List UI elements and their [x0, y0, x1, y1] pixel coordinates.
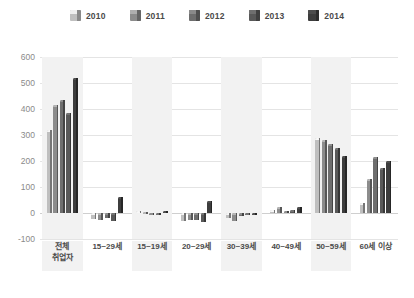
bar-group: [219, 57, 264, 239]
bar-2014[interactable]: [342, 156, 347, 213]
cube-icon: [70, 10, 81, 21]
bar-group: [174, 57, 219, 239]
bar-2011[interactable]: [367, 179, 372, 213]
bar-2012[interactable]: [60, 100, 65, 213]
legend-item-2013[interactable]: 2013: [249, 10, 285, 21]
x-axis-label: 15~19세: [130, 242, 175, 253]
bar-2012[interactable]: [328, 144, 333, 213]
bar-2010[interactable]: [136, 211, 141, 213]
bar-2013[interactable]: [111, 213, 116, 221]
bar-2011[interactable]: [53, 105, 58, 213]
bar-2010[interactable]: [270, 210, 275, 213]
bar-2011[interactable]: [98, 213, 103, 220]
x-axis-label: 40~49세: [264, 242, 309, 253]
legend-label: 2013: [265, 11, 285, 21]
bar-2012[interactable]: [373, 157, 378, 213]
y-axis-tick: 0: [30, 208, 35, 218]
bar-2013[interactable]: [290, 210, 295, 213]
bar-group: [264, 57, 309, 239]
y-axis-tick: 200: [21, 156, 35, 166]
plot-area: [40, 57, 398, 239]
y-axis: 6005004003002001000-100: [0, 57, 40, 239]
y-axis-tick: 400: [21, 104, 35, 114]
bar-group: [353, 57, 398, 239]
cube-icon: [308, 10, 319, 21]
legend-item-2010[interactable]: 2010: [70, 10, 106, 21]
chart-legend: 20102011201220132014: [0, 10, 414, 21]
x-axis-label: 전체 취업자: [40, 242, 85, 263]
bar-2012[interactable]: [239, 213, 244, 216]
bar-2014[interactable]: [118, 197, 123, 213]
bar-2014[interactable]: [207, 201, 212, 213]
bar-2013[interactable]: [156, 213, 161, 215]
bar-2010[interactable]: [181, 213, 186, 221]
bar-2013[interactable]: [66, 113, 71, 213]
x-axis-label: 50~59세: [309, 242, 354, 253]
bar-2011[interactable]: [143, 212, 148, 214]
legend-label: 2011: [146, 11, 165, 21]
legend-item-2012[interactable]: 2012: [189, 10, 225, 21]
gridline: [40, 239, 398, 240]
bar-2012[interactable]: [105, 213, 110, 218]
bar-group: [309, 57, 354, 239]
bar-2010[interactable]: [47, 130, 52, 213]
y-axis-tick: 600: [21, 52, 35, 62]
bar-2012[interactable]: [149, 213, 154, 215]
legend-item-2014[interactable]: 2014: [308, 10, 344, 21]
x-axis-label: 15~29세: [85, 242, 130, 253]
bar-2013[interactable]: [335, 148, 340, 213]
x-axis-label: 20~29세: [174, 242, 219, 253]
bar-2010[interactable]: [91, 213, 96, 219]
bar-2013[interactable]: [245, 213, 250, 215]
legend-label: 2012: [205, 11, 225, 21]
bar-2011[interactable]: [188, 213, 193, 220]
bar-2012[interactable]: [194, 213, 199, 220]
x-axis-label: 30~39세: [219, 242, 264, 253]
y-axis-tick: -100: [18, 234, 35, 244]
bar-2010[interactable]: [360, 203, 365, 213]
bar-2011[interactable]: [277, 207, 282, 214]
cube-icon: [189, 10, 200, 21]
bar-2014[interactable]: [386, 161, 391, 213]
legend-label: 2010: [86, 11, 106, 21]
y-axis-tick: 100: [21, 182, 35, 192]
bar-2013[interactable]: [201, 213, 206, 222]
bar-group: [85, 57, 130, 239]
cube-icon: [249, 10, 260, 21]
bar-2014[interactable]: [297, 207, 302, 213]
y-axis-tick: 500: [21, 78, 35, 88]
bar-2013[interactable]: [380, 168, 385, 214]
bar-2011[interactable]: [322, 140, 327, 213]
bar-2014[interactable]: [252, 213, 257, 215]
y-axis-tick: 300: [21, 130, 35, 140]
legend-label: 2014: [324, 11, 344, 21]
x-axis-label: 60세 이상: [353, 242, 398, 253]
bar-chart: 20102011201220132014 6005004003002001000…: [0, 0, 414, 298]
bar-2012[interactable]: [284, 211, 289, 213]
bar-2010[interactable]: [315, 138, 320, 213]
legend-item-2011[interactable]: 2011: [130, 10, 165, 21]
bar-2010[interactable]: [226, 213, 231, 218]
bar-group: [130, 57, 175, 239]
bar-2014[interactable]: [163, 211, 168, 213]
bar-2011[interactable]: [232, 213, 237, 221]
bar-2014[interactable]: [73, 78, 78, 213]
cube-icon: [130, 10, 141, 21]
bar-group: [40, 57, 85, 239]
x-axis: 전체 취업자15~29세15~19세20~29세30~39세40~49세50~5…: [40, 241, 398, 281]
